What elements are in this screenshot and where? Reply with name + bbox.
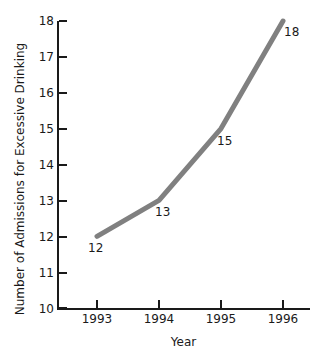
y-axis-title: Number of Admissions for Excessive Drink… [7, 0, 33, 358]
data-point-label-1995: 15 [217, 135, 232, 147]
x-axis-title: Year [57, 335, 310, 349]
data-point-label-1996: 18 [284, 26, 299, 38]
data-point-label-1994: 13 [155, 206, 170, 218]
line-chart: 18 17 16 15 14 13 12 11 10 1993 1994 199… [0, 0, 323, 358]
data-series-line [0, 0, 323, 358]
data-point-label-1993: 12 [88, 242, 103, 254]
